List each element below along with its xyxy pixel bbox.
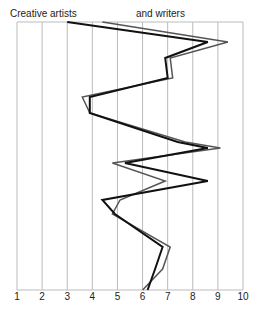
x-tick-label: 1 xyxy=(14,291,20,302)
x-tick-label: 2 xyxy=(39,291,45,302)
x-tick-label: 3 xyxy=(64,291,70,302)
x-tick-label: 8 xyxy=(190,291,196,302)
x-tick-label: 10 xyxy=(237,291,248,302)
series-line xyxy=(67,22,208,290)
x-tick-label: 5 xyxy=(115,291,121,302)
x-tick-label: 6 xyxy=(140,291,146,302)
series-line xyxy=(82,22,228,290)
x-tick-label: 4 xyxy=(90,291,96,302)
x-tick-label: 7 xyxy=(165,291,171,302)
chart-plot xyxy=(0,0,256,322)
x-tick-label: 9 xyxy=(215,291,221,302)
